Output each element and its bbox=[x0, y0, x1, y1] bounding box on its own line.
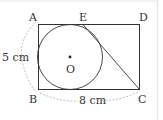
rectangle-abcd bbox=[39, 25, 140, 90]
geometry-diagram: A E D B C O 5 cm 8 cm bbox=[0, 0, 163, 120]
center-point-o bbox=[69, 56, 72, 59]
label-d: D bbox=[139, 11, 148, 24]
label-c: C bbox=[138, 93, 146, 106]
label-o: O bbox=[66, 63, 75, 76]
dimension-width-label: 8 cm bbox=[79, 94, 107, 107]
label-b: B bbox=[29, 93, 37, 106]
label-a: A bbox=[28, 11, 38, 24]
dimension-height-label: 5 cm bbox=[2, 51, 30, 64]
label-e: E bbox=[79, 11, 87, 24]
segment-ec bbox=[83, 25, 140, 90]
